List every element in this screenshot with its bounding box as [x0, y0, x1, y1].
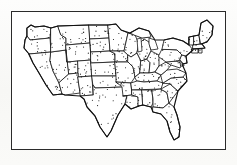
density-dot	[178, 129, 179, 130]
density-dot	[87, 85, 88, 86]
density-dot	[159, 94, 160, 95]
density-dot	[120, 84, 121, 85]
us-dot-density-map	[11, 11, 226, 150]
density-dot	[84, 94, 85, 95]
density-dot	[143, 72, 144, 73]
density-dot	[116, 94, 117, 95]
density-dot	[75, 72, 76, 73]
density-dot	[180, 82, 181, 83]
density-dot	[84, 69, 85, 70]
density-dot	[162, 50, 163, 51]
density-dot	[144, 61, 145, 62]
density-dot	[81, 76, 82, 77]
density-dot	[132, 96, 133, 97]
density-dot	[34, 36, 35, 37]
density-dot	[56, 69, 57, 70]
density-dot	[133, 92, 134, 93]
density-dot	[73, 91, 74, 92]
density-dot	[138, 66, 139, 67]
density-dot	[126, 102, 127, 103]
density-dot	[191, 49, 192, 50]
density-dot	[171, 114, 172, 115]
density-dot	[206, 41, 207, 42]
density-dot	[121, 103, 122, 104]
density-dot	[148, 90, 149, 91]
state-nebraska	[91, 51, 115, 63]
density-dot	[171, 52, 172, 53]
density-dot	[105, 44, 106, 45]
density-dot	[50, 34, 51, 35]
density-dot	[64, 42, 65, 43]
density-dot	[109, 65, 110, 66]
density-dot	[195, 50, 196, 51]
density-dot	[174, 73, 175, 74]
density-dot	[81, 42, 82, 43]
density-dot	[138, 105, 139, 106]
density-dot	[62, 37, 63, 38]
density-dot	[81, 33, 82, 34]
density-dot	[194, 41, 195, 42]
density-dot	[70, 39, 71, 40]
density-dot	[113, 117, 114, 118]
density-dot	[154, 87, 155, 88]
density-dot	[52, 47, 53, 48]
density-dot	[117, 72, 118, 73]
density-dot	[100, 42, 101, 43]
density-dot	[184, 79, 185, 80]
density-dot	[151, 90, 152, 91]
density-dot	[143, 40, 144, 41]
density-dot	[32, 39, 33, 40]
density-dot	[167, 91, 168, 92]
density-dot	[144, 58, 145, 59]
density-dot	[53, 69, 54, 70]
density-dot	[178, 62, 179, 63]
density-dot	[209, 32, 210, 33]
density-dot	[87, 102, 88, 103]
density-dot	[50, 61, 51, 62]
density-dot	[152, 74, 153, 75]
density-dot	[80, 74, 81, 75]
density-dot	[100, 52, 101, 53]
density-dot	[107, 84, 108, 85]
density-dot	[196, 40, 197, 41]
density-dot	[85, 41, 86, 42]
density-dot	[149, 82, 150, 83]
density-dot	[57, 87, 58, 88]
density-dot	[195, 44, 196, 45]
density-dot	[126, 60, 127, 61]
density-dot	[168, 44, 169, 45]
density-dot	[90, 86, 91, 87]
density-dot	[101, 124, 102, 125]
density-dot	[117, 83, 118, 84]
density-dot	[97, 55, 98, 56]
density-dot	[55, 86, 56, 87]
density-dot	[139, 54, 140, 55]
density-dot	[155, 90, 156, 91]
density-dot	[88, 58, 89, 59]
density-dot	[170, 122, 171, 123]
density-dot	[75, 51, 76, 52]
density-dot	[142, 46, 143, 47]
density-dot	[85, 72, 86, 73]
density-dot	[92, 53, 93, 54]
density-dot	[127, 57, 128, 58]
density-dot	[46, 61, 47, 62]
density-dot	[44, 52, 45, 53]
density-dot	[77, 82, 78, 83]
density-dot	[139, 69, 140, 70]
density-dot	[79, 38, 80, 39]
density-dot	[165, 64, 166, 65]
density-dot	[142, 87, 143, 88]
density-dot	[156, 54, 157, 55]
density-dot	[78, 68, 79, 69]
density-dot	[113, 59, 114, 60]
density-dot	[115, 113, 116, 114]
density-dot	[37, 51, 38, 52]
density-dot	[81, 88, 82, 89]
density-dot	[168, 65, 169, 66]
density-dot	[131, 52, 132, 53]
state-wyoming	[66, 43, 91, 62]
density-dot	[125, 90, 126, 91]
density-dot	[96, 43, 97, 44]
density-dot	[116, 82, 117, 83]
